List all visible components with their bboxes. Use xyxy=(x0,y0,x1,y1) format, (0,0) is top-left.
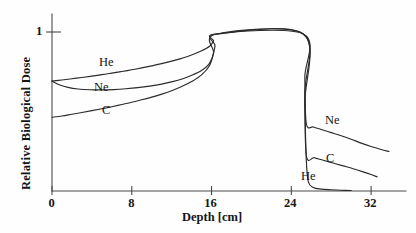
series-label-he-tail: He xyxy=(301,170,316,183)
series-label-he-entrance: He xyxy=(99,56,114,69)
series-label-c-entrance: C xyxy=(102,104,110,117)
x-tick-label-32: 32 xyxy=(364,197,377,210)
series-label-ne-tail: Ne xyxy=(325,114,340,127)
x-tick-label-8: 8 xyxy=(128,197,134,210)
x-tick-label-24: 24 xyxy=(284,197,297,210)
series-label-c-tail: C xyxy=(326,152,334,165)
series-label-ne-entrance: Ne xyxy=(94,81,109,94)
x-axis-title: Depth [cm] xyxy=(182,211,242,224)
y-tick-label-1: 1 xyxy=(36,25,42,38)
chart-figure: 1 Depth [cm] Relative Biological Dose He… xyxy=(0,0,416,233)
x-tick-label-0: 0 xyxy=(48,197,54,210)
x-tick-label-16: 16 xyxy=(204,197,217,210)
axes-group xyxy=(46,14,406,191)
y-axis-title: Relative Biological Dose xyxy=(20,57,33,190)
